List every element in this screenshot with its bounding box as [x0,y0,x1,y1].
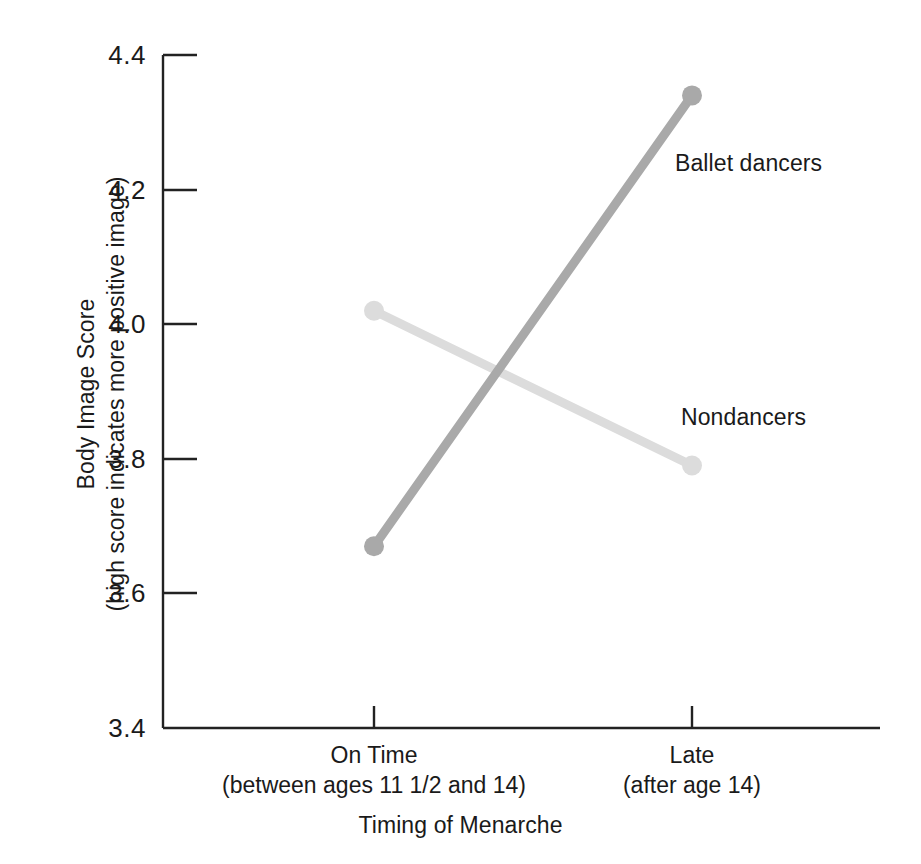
x-tick-late: Late (after age 14) [623,740,761,801]
x-axis-ticks [374,706,692,728]
x-tick-on-time-sublabel: (between ages 11 1/2 and 14) [222,770,526,800]
x-tick-late-label: Late [623,740,761,770]
nondancers-data-point [682,456,702,476]
x-tick-on-time-label: On Time [222,740,526,770]
series-ballet-dancers [364,85,702,556]
x-tick-late-sublabel: (after age 14) [623,770,761,800]
plot-area [0,0,921,864]
series-label-ballet-dancers: Ballet dancers [675,150,822,177]
x-axis-title: Timing of Menarche [0,812,921,839]
series-label-nondancers: Nondancers [681,404,806,431]
y-axis-ticks [163,55,197,593]
nondancers-line [374,311,692,466]
nondancers-data-point [364,301,384,321]
ballet-dancers-line [374,95,692,546]
x-tick-on-time: On Time (between ages 11 1/2 and 14) [222,740,526,801]
chart-figure: Body Image Score (high score indicates m… [0,0,921,864]
ballet-dancers-data-point [682,85,702,105]
ballet-dancers-data-point [364,536,384,556]
